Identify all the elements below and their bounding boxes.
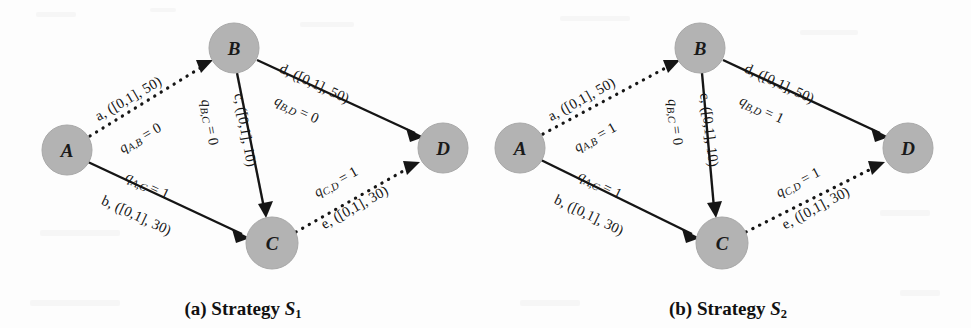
graph-svg-s2: A B C D	[485, 0, 971, 290]
caption-panel-b: (b) Strategy S2	[485, 298, 971, 322]
caption-prefix-a: (a)	[184, 298, 206, 319]
arrow-head-b-c	[258, 201, 273, 218]
caption-word-b: Strategy	[697, 298, 766, 319]
panel-strategy-s2: A B C D a, ([0,1], 50) qA,B = 1 qA,C = 1…	[485, 0, 971, 328]
node-a-label: A	[513, 138, 527, 159]
caption-subscript-b: 2	[781, 307, 787, 321]
arrow-head-b-c	[707, 201, 722, 218]
arrow-head-c-d	[403, 161, 420, 175]
caption-panel-a: (a) Strategy S1	[0, 298, 486, 322]
node-c-label: C	[716, 233, 729, 254]
panel-strategy-s1: A B C D a, ([0,1], 50) qA,B = 0 qA,C = 1…	[0, 0, 486, 328]
arrow-head-a-b	[663, 60, 680, 73]
node-d-label: D	[435, 138, 450, 159]
arrow-head-a-b	[196, 60, 213, 73]
node-a-label: A	[60, 140, 74, 161]
caption-prefix-b: (b)	[669, 298, 692, 319]
caption-subscript-a: 1	[295, 307, 301, 321]
node-d-label: D	[900, 138, 915, 159]
caption-symbol-a: S	[285, 298, 296, 319]
flow-sub-b-c: B,C	[665, 106, 678, 123]
node-b-label: B	[693, 38, 707, 59]
figure-container: A B C D a, ([0,1], 50) qA,B = 0 qA,C = 1…	[0, 0, 971, 328]
node-b-label: B	[227, 38, 241, 59]
node-c-label: C	[266, 233, 279, 254]
caption-symbol-b: S	[770, 298, 781, 319]
flow-sub-b-c: B,C	[198, 106, 212, 124]
caption-word-a: Strategy	[211, 298, 280, 319]
arrow-head-c-d	[868, 161, 885, 175]
